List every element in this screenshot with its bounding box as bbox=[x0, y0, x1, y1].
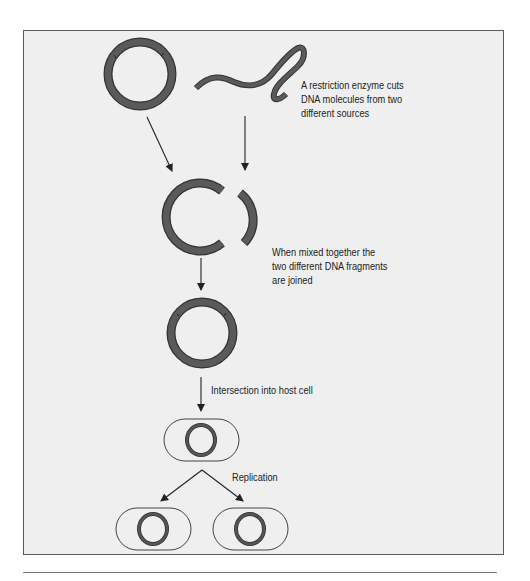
label-restriction-enzyme-cuts: A restriction enzyme cuts DNA molecules … bbox=[301, 78, 404, 120]
label-line: A restriction enzyme cuts bbox=[301, 78, 404, 92]
recombinant-dna-diagram bbox=[0, 0, 530, 581]
label-line: Intersection into host cell bbox=[211, 383, 313, 397]
label-fragments-joined: When mixed together the two different DN… bbox=[272, 245, 387, 287]
label-line: two different DNA fragments bbox=[272, 259, 387, 273]
plasmid-circle bbox=[108, 42, 172, 106]
host-cell bbox=[164, 419, 239, 461]
label-line: different sources bbox=[301, 106, 404, 120]
foreign-dna-fragment bbox=[240, 193, 253, 243]
page-divider bbox=[23, 572, 497, 573]
arrow-plasmid-to-cut bbox=[147, 117, 172, 171]
label-line: Replication bbox=[232, 470, 278, 484]
arrow-replicate-left bbox=[161, 470, 202, 501]
daughter-cell-left bbox=[116, 508, 191, 550]
foreign-dna-strand bbox=[196, 48, 304, 100]
recombinant-plasmid bbox=[171, 302, 233, 364]
cut-plasmid bbox=[166, 183, 223, 251]
label-insertion-host-cell: Intersection into host cell bbox=[211, 383, 313, 397]
label-line: are joined bbox=[272, 273, 387, 287]
daughter-cell-right bbox=[213, 508, 288, 550]
label-replication: Replication bbox=[232, 470, 278, 484]
label-line: DNA molecules from two bbox=[301, 92, 404, 106]
label-line: When mixed together the bbox=[272, 245, 387, 259]
